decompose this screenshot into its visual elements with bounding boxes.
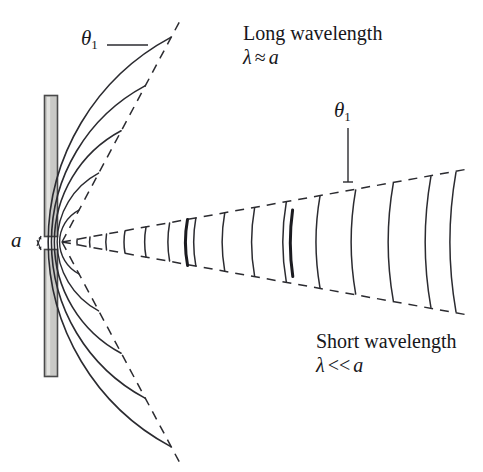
short-wavefront-arc xyxy=(316,196,320,288)
short-wavelength-upper-boundary xyxy=(62,169,468,242)
short-wavefront-arc xyxy=(425,177,431,308)
angle-boundary-lines xyxy=(62,17,468,467)
lambda-symbol-short: λ xyxy=(316,354,325,376)
short-wavefront-arc xyxy=(194,218,196,265)
short-wavefront-arc xyxy=(252,208,255,276)
short-wavefront-arc xyxy=(283,202,286,282)
short-wavelength-lower-boundary xyxy=(62,242,468,315)
theta-symbol-right: θ xyxy=(334,98,344,122)
slit-width-symbol-short: a xyxy=(353,354,363,376)
short-wavefront-arc xyxy=(145,227,146,257)
short-wavefront-arc xyxy=(351,190,356,294)
long-wavelength-lower-boundary xyxy=(62,242,182,467)
short-wavefront-arc xyxy=(106,234,107,250)
lambda-symbol-long: λ xyxy=(243,46,252,68)
short-wavefront-arc xyxy=(168,223,170,261)
barrier-upper-plate xyxy=(45,96,58,237)
theta-subscript-right: 1 xyxy=(344,109,351,124)
long-wavelength-upper-boundary xyxy=(62,17,182,242)
short-wavelength-wavefronts xyxy=(77,172,456,312)
short-wavefront-arc xyxy=(450,172,456,312)
slit-width-dimension xyxy=(37,236,41,250)
long-wavefront-arc xyxy=(48,37,171,446)
theta-symbol-left: θ xyxy=(81,26,91,50)
barrier-lower-plate xyxy=(45,250,58,377)
diffraction-figure: θ1 θ1 a Long wavelength λ≈a Short wavele… xyxy=(0,0,483,472)
long-wavelength-emphasized-crests xyxy=(185,210,292,277)
much-less-than-operator: << xyxy=(328,354,351,376)
diffraction-diagram-svg xyxy=(0,0,483,472)
theta-label-short-wavelength: θ1 xyxy=(334,98,351,124)
long-wavefront-crest-emphasis xyxy=(185,220,187,266)
long-wavefront-crest-emphasis xyxy=(290,210,292,277)
short-wavefront-arc xyxy=(124,231,125,253)
long-wavelength-condition: λ≈a xyxy=(243,46,382,70)
theta-subscript-left: 1 xyxy=(91,37,98,52)
theta-label-long-wavelength: θ1 xyxy=(81,26,98,52)
long-wavelength-wavefronts xyxy=(48,37,171,446)
slit-width-label: a xyxy=(11,228,22,253)
short-wavefront-arc xyxy=(388,183,393,300)
slit-width-symbol-long: a xyxy=(269,46,279,68)
slit-width-symbol: a xyxy=(11,228,22,252)
long-wavelength-caption: Long wavelength λ≈a xyxy=(243,22,382,69)
short-wavelength-condition: λ<<a xyxy=(316,354,457,378)
short-wavefront-arc xyxy=(222,213,225,271)
long-wavelength-title: Long wavelength xyxy=(243,22,382,46)
approx-operator: ≈ xyxy=(255,46,266,68)
short-wavelength-caption: Short wavelength λ<<a xyxy=(316,330,457,377)
short-wavelength-title: Short wavelength xyxy=(316,330,457,354)
